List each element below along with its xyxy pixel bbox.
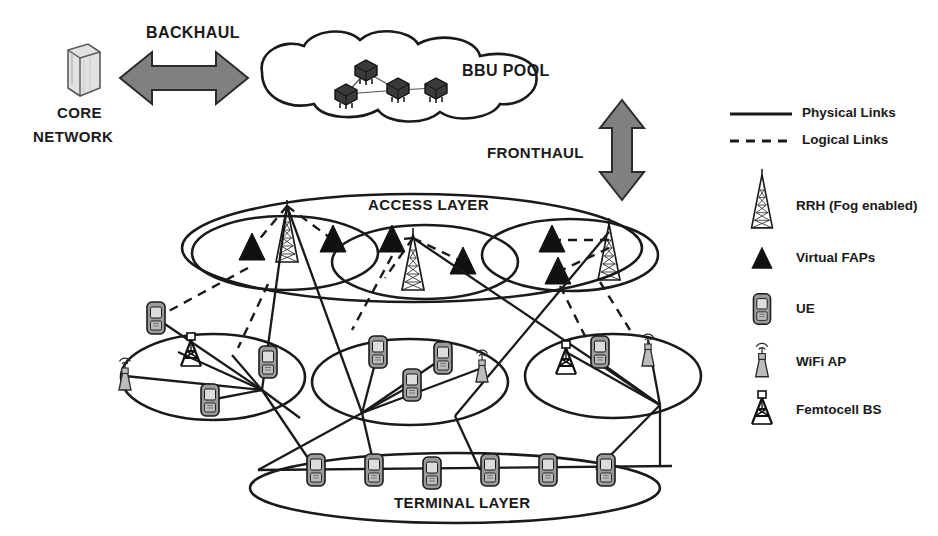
ue-device [147, 302, 165, 334]
backhaul-arrow-icon [120, 52, 248, 104]
terminal-layer-group [250, 453, 660, 523]
legend-item-physical-links: Physical Links [802, 105, 896, 120]
fog-layer-group [119, 302, 701, 425]
core-network-icon [68, 44, 100, 96]
virtual-fap [450, 247, 476, 274]
core-network-label-line2: NETWORK [33, 128, 113, 145]
ue-device [259, 346, 277, 378]
network-architecture-diagram: BACKHAUL CORE NETWORK BBU POOL FRONTHAUL… [0, 0, 938, 536]
mobile-phone-icon [753, 294, 770, 324]
ue-device [591, 336, 609, 368]
legend-item-femtocell-bs: Femtocell BS [796, 402, 882, 417]
access-cell-2-ellipse [332, 225, 518, 299]
ue-device [369, 336, 387, 368]
ue-device [307, 454, 325, 486]
ue-device [434, 342, 452, 374]
legend-symbols [730, 114, 792, 424]
backhaul-label: BACKHAUL [146, 24, 240, 42]
rrh-tower-icon [752, 169, 773, 228]
legend-item-logical-links: Logical Links [802, 132, 888, 147]
legend-item-virtual-faps: Virtual FAPs [796, 250, 875, 265]
ue-device [481, 454, 499, 486]
core-network-label-line1: CORE [57, 104, 102, 121]
ue-device [539, 454, 557, 486]
ue-device [365, 454, 383, 486]
fronthaul-label: FRONTHAUL [487, 144, 584, 161]
ue-device [403, 369, 421, 401]
legend-item-ue: UE [796, 301, 815, 316]
triangle-icon [752, 247, 772, 268]
fog-cluster-3-ellipse [525, 334, 701, 418]
access-layer-label: ACCESS LAYER [368, 196, 489, 213]
fronthaul-arrow-icon [600, 100, 644, 200]
femtocell-bs-icon [752, 391, 772, 424]
ue-device [423, 457, 441, 489]
bbu-pool-label: BBU POOL [462, 62, 550, 80]
terminal-layer-label: TERMINAL LAYER [394, 494, 530, 511]
virtual-fap [320, 225, 346, 252]
diagram-canvas [0, 0, 938, 536]
ue-device [201, 384, 219, 416]
virtual-fap [545, 257, 571, 284]
virtual-fap [539, 225, 565, 252]
rrh-tower [402, 228, 424, 290]
wifi-ap-icon [756, 343, 769, 376]
ue-device [597, 454, 615, 486]
legend-item-rrh: RRH (Fog enabled) [796, 198, 918, 213]
legend-item-wifi-ap: WiFi AP [796, 354, 846, 369]
